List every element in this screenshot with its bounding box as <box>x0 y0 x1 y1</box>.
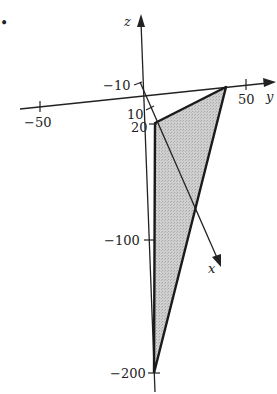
y-axis-arrowhead <box>263 78 276 87</box>
z-axis-arrowhead <box>137 14 145 27</box>
tick-x-10 <box>146 106 154 110</box>
tick-label-neg10: −10 <box>103 78 130 93</box>
y-axis-label: y <box>265 89 274 104</box>
tick-label-neg200: −200 <box>110 366 146 381</box>
tick-label-neg50: −50 <box>24 115 51 130</box>
z-axis <box>141 22 155 392</box>
bullet-marker: • <box>0 15 8 31</box>
tick-label-neg100: −100 <box>104 233 140 248</box>
tick-label-50: 50 <box>238 92 255 107</box>
z-axis-label: z <box>123 14 131 29</box>
x-axis-label: x <box>208 261 216 276</box>
3d-axes-diagram: • z y x −10 10 20 −50 50 −100 −200 <box>0 0 277 394</box>
tick-label-20: 20 <box>131 120 148 135</box>
